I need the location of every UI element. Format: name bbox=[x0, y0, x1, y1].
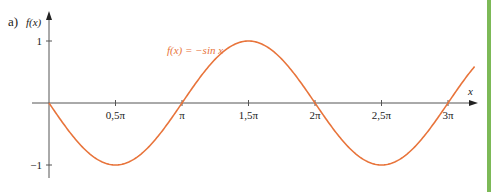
x-tick-label: 2,5π bbox=[372, 109, 392, 121]
accent-bar bbox=[487, 0, 491, 192]
function-label: f(x) = −sin x bbox=[167, 44, 223, 57]
y-axis-arrow-icon bbox=[46, 11, 52, 20]
y-tick-label: 1 bbox=[37, 35, 43, 47]
y-tick-label: −1 bbox=[30, 159, 42, 171]
x-axis-label: x bbox=[467, 85, 473, 97]
chart: 0,5ππ1,5π2π2,5π3π 1−1 a) f(x) x f(x) = −… bbox=[0, 0, 492, 192]
x-tick-label: 0,5π bbox=[106, 109, 126, 121]
x-tick-label: 1,5π bbox=[239, 109, 259, 121]
plot-area: 0,5ππ1,5π2π2,5π3π 1−1 a) f(x) x f(x) = −… bbox=[0, 0, 492, 192]
x-tick-label: 2π bbox=[309, 109, 321, 121]
y-axis-label: f(x) bbox=[26, 16, 42, 29]
panel-label: a) bbox=[8, 14, 18, 29]
x-axis-arrow-icon bbox=[469, 100, 478, 106]
x-tick-label: π bbox=[179, 109, 185, 121]
x-tick-label: 3π bbox=[442, 109, 454, 121]
